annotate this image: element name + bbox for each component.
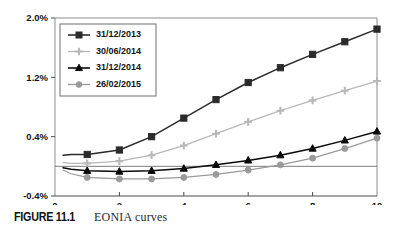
y-tick-label: -0.4% <box>23 190 48 201</box>
y-axis-ticks: -0.4%0.4%1.2%2.0% <box>23 12 55 201</box>
data-point-marker <box>213 172 219 178</box>
data-point-marker <box>245 167 251 173</box>
data-point-marker <box>342 39 348 45</box>
x-tick-label: 8 <box>310 200 315 206</box>
data-point-marker <box>309 96 317 104</box>
legend-item-label: 30/06/2014 <box>96 46 141 56</box>
data-point-marker <box>212 130 220 138</box>
y-tick-label: 1.2% <box>26 72 48 83</box>
data-point-marker <box>341 87 349 95</box>
legend-item-label: 31/12/2014 <box>96 62 141 72</box>
data-point-marker <box>116 176 122 182</box>
chart-legend: 31/12/201330/06/201431/12/201426/02/2015 <box>60 24 156 96</box>
data-point-marker <box>76 32 82 38</box>
data-point-marker <box>373 128 380 135</box>
data-point-marker <box>310 155 316 161</box>
data-point-marker <box>148 151 156 159</box>
data-point-marker <box>149 176 155 182</box>
eonia-curves-chart: -0.4%0.4%1.2%2.0% 0246810 31/12/201330/0… <box>0 0 406 205</box>
figure-caption-text: EONIA curves <box>94 210 167 225</box>
data-point-marker <box>149 134 155 140</box>
data-point-marker <box>213 96 219 102</box>
x-tick-label: 4 <box>181 200 187 206</box>
figure-container: -0.4%0.4%1.2%2.0% 0246810 31/12/201330/0… <box>0 0 406 242</box>
y-tick-label: 0.4% <box>26 131 48 142</box>
data-point-marker <box>116 157 124 165</box>
data-point-marker <box>277 107 285 115</box>
y-tick-label: 2.0% <box>26 12 48 23</box>
legend-item-label: 31/12/2013 <box>96 29 141 39</box>
data-point-marker <box>277 65 283 71</box>
data-point-marker <box>310 51 316 57</box>
x-axis-ticks: 0246810 <box>52 192 382 205</box>
data-point-marker <box>84 151 90 157</box>
data-point-marker <box>244 118 252 126</box>
data-point-marker <box>277 162 283 168</box>
data-point-marker <box>84 175 90 181</box>
x-tick-label: 0 <box>52 200 57 206</box>
data-point-marker <box>374 26 380 32</box>
data-point-marker <box>245 79 251 85</box>
chart-area: -0.4%0.4%1.2%2.0% 0246810 31/12/201330/0… <box>0 0 406 205</box>
data-point-marker <box>180 142 188 150</box>
figure-caption: FIGURE 11.1 EONIA curves <box>14 210 167 225</box>
series-4 <box>63 135 380 182</box>
data-point-marker <box>116 147 122 153</box>
legend-item-3[interactable]: 31/12/2014 <box>68 62 141 72</box>
x-tick-label: 2 <box>117 200 122 206</box>
x-tick-label: 6 <box>246 200 251 206</box>
data-point-marker <box>342 146 348 152</box>
x-tick-label: 10 <box>372 200 383 206</box>
data-point-marker <box>181 175 187 181</box>
data-point-marker <box>76 82 82 88</box>
data-point-marker <box>374 135 380 141</box>
figure-number-label: FIGURE 11.1 <box>14 210 75 224</box>
data-point-marker <box>373 77 381 85</box>
data-point-marker <box>181 115 187 121</box>
legend-item-label: 26/02/2015 <box>96 79 141 89</box>
